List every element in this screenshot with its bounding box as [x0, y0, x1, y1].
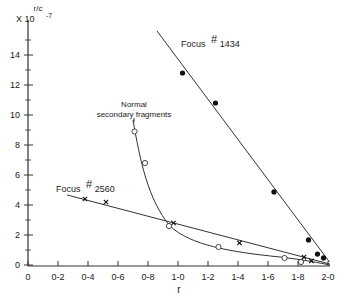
y-tick-label: 2 [15, 230, 20, 240]
marker-open-circle [216, 244, 221, 249]
curve-normal-secondary-fragments [133, 120, 330, 265]
marker-open-circle [282, 255, 287, 260]
fit-lines [67, 31, 330, 265]
marker-filled-circle [321, 255, 326, 260]
y-axis-label-exponent: -7 [46, 12, 52, 19]
data-markers [83, 70, 326, 264]
marker-filled-circle [180, 70, 185, 75]
marker-filled-circle [306, 237, 311, 242]
x-ticks: 00-20-40-60-81-01-21-41-61-82-0 [25, 261, 334, 282]
y-tick-label: 4 [15, 200, 20, 210]
y-tick-label: 10 [10, 110, 20, 120]
svg-text:Focus # 2560: Focus # 2560 [56, 178, 115, 194]
x-tick-label: 1-0 [171, 272, 184, 282]
x-tick-label: 2-0 [321, 272, 334, 282]
marker-x [104, 200, 108, 204]
fit-line-focus-1434 [157, 31, 330, 262]
x-tick-label: 1-2 [201, 272, 214, 282]
y-axis-label-ratio: r/c [34, 4, 43, 13]
series-label-focus-2560: Focus # 2560 [56, 178, 115, 194]
x-tick-label: 1-8 [291, 272, 304, 282]
x-tick-label: 0-8 [141, 272, 154, 282]
y-tick-label: 14 [10, 50, 20, 60]
x-tick-label: 0-2 [51, 272, 64, 282]
scatter-chart: 02468101214 00-20-40-60-81-01-21-41-61-8… [0, 0, 347, 298]
marker-filled-circle [315, 251, 320, 256]
axes [28, 20, 330, 266]
svg-text:Focus # 1434: Focus # 1434 [181, 33, 240, 49]
marker-open-circle [298, 259, 303, 264]
marker-filled-circle [271, 189, 276, 194]
svg-text:Normal: Normal [121, 100, 147, 109]
x-tick-label: 0-6 [111, 272, 124, 282]
marker-x [237, 241, 241, 245]
y-axis-label-scale: X 10 [16, 14, 35, 24]
series-label-normal: Normal secondary fragments [97, 100, 172, 119]
y-ticks: 02468101214 [10, 40, 33, 270]
x-tick-label: 1-4 [231, 272, 244, 282]
x-tick-label: 0 [25, 272, 30, 282]
x-axis-label: r [177, 284, 181, 295]
svg-text:secondary fragments: secondary fragments [97, 110, 172, 119]
series-label-focus-1434: Focus # 1434 [181, 33, 240, 49]
y-tick-label: 12 [10, 80, 20, 90]
marker-open-circle [132, 129, 137, 134]
y-tick-label: 8 [15, 140, 20, 150]
y-tick-label: 0 [15, 260, 20, 270]
fit-line-focus-2560 [67, 195, 330, 264]
marker-open-circle [166, 223, 171, 228]
y-axis-label: r/c X 10 -7 [16, 4, 52, 24]
x-tick-label: 1-6 [261, 272, 274, 282]
y-tick-label: 6 [15, 170, 20, 180]
marker-open-circle [142, 160, 147, 165]
marker-filled-circle [213, 100, 218, 105]
x-tick-label: 0-4 [81, 272, 94, 282]
